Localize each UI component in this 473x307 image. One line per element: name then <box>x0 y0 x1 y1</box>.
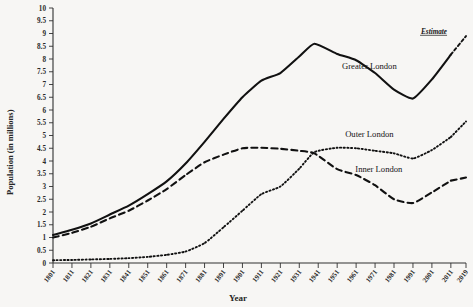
estimate-annotation: Estimate <box>420 28 448 36</box>
x-tick-label: 1951 <box>326 268 341 284</box>
x-tick-label: 1861 <box>156 268 171 284</box>
series-estimate-outer-london <box>451 121 466 137</box>
x-tick-label: 1821 <box>80 268 95 284</box>
y-axis-title: Population (in millions) <box>5 109 15 195</box>
x-tick-label: 1801 <box>42 268 57 284</box>
series-inline-labels: Greater LondonInner LondonOuter London <box>342 61 403 174</box>
y-tick-label: 6 <box>42 107 46 115</box>
y-tick-label: 3.5 <box>37 170 46 178</box>
y-tick-label: 2 <box>42 209 46 217</box>
x-tick-label: 2001 <box>421 268 436 284</box>
x-tick-label: 1971 <box>364 268 379 284</box>
x-tick-label: 1991 <box>402 268 417 284</box>
y-tick-label: 7.5 <box>37 68 46 76</box>
y-tick-label: 4.5 <box>37 145 46 153</box>
y-axis-ticks: 00.511.522.533.544.555.566.577.588.599.5… <box>37 5 53 268</box>
y-tick-label: 7 <box>42 81 46 89</box>
y-tick-label: 5 <box>42 132 46 140</box>
x-tick-label: 1981 <box>383 268 398 284</box>
y-tick-label: 9.5 <box>37 17 46 25</box>
x-tick-label: 2011 <box>440 268 455 284</box>
x-tick-label: 1811 <box>61 268 76 284</box>
y-tick-label: 9 <box>42 30 46 38</box>
y-tick-label: 0 <box>42 260 46 268</box>
series-label-outer-london: Outer London <box>345 129 394 139</box>
y-tick-label: 2.5 <box>37 196 46 204</box>
series-line-greater-london <box>53 44 451 235</box>
y-tick-label: 8.5 <box>37 43 46 51</box>
x-axis-ticks: 1801181118211831184118511861187118811891… <box>42 263 470 284</box>
chart-canvas: 00.511.522.533.544.555.566.577.588.599.5… <box>0 0 473 307</box>
x-tick-label: 1941 <box>307 268 322 284</box>
y-tick-label: 1 <box>42 234 46 242</box>
x-tick-label: 1871 <box>175 268 190 284</box>
series-estimate-inner-london <box>451 178 466 181</box>
y-tick-label: 1.5 <box>37 221 46 229</box>
y-tick-label: 4 <box>42 158 46 166</box>
series-line-inner-london <box>53 148 451 238</box>
y-tick-label: 8 <box>42 56 46 64</box>
y-tick-label: 5.5 <box>37 119 46 127</box>
series-label-greater-london: Greater London <box>342 61 397 71</box>
x-tick-label: 1921 <box>269 268 284 284</box>
x-tick-label: 1911 <box>251 268 266 284</box>
x-tick-label: 1831 <box>99 268 114 284</box>
series-estimate-greater-london <box>451 36 466 55</box>
x-tick-label: 1931 <box>288 268 303 284</box>
y-tick-label: 10 <box>39 5 47 13</box>
x-tick-label: 1961 <box>345 268 360 284</box>
y-tick-label: 0.5 <box>37 247 46 255</box>
population-line-chart: 00.511.522.533.544.555.566.577.588.599.5… <box>0 0 473 307</box>
x-tick-label: 1891 <box>213 268 228 284</box>
y-tick-label: 6.5 <box>37 94 46 102</box>
x-tick-label: 1841 <box>118 268 133 284</box>
x-tick-label: 1881 <box>194 268 209 284</box>
x-axis-title: Year <box>229 293 247 303</box>
series-paths <box>53 36 466 260</box>
chart-annotations: Estimate <box>420 28 448 36</box>
x-tick-label: 1851 <box>137 268 152 284</box>
x-tick-label: 1901 <box>232 268 247 284</box>
series-label-inner-london: Inner London <box>355 164 403 174</box>
y-tick-label: 3 <box>42 183 46 191</box>
x-tick-label: 2019 <box>455 268 470 284</box>
